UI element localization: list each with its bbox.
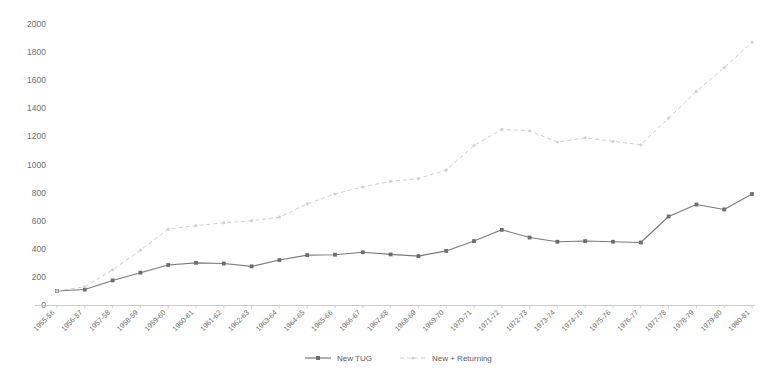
data-point-marker (250, 264, 254, 268)
x-axis-tick-label: 1974-75 (560, 308, 585, 333)
data-point-marker (611, 140, 614, 143)
x-axis-tick-label: 1958-59 (115, 308, 140, 333)
x-axis-tick-label: 1980-81 (726, 308, 751, 333)
data-point-marker (306, 202, 309, 205)
x-axis-tick-labels: 1955-561956-571957-581958-591959-601960-… (31, 308, 751, 333)
x-axis-tick-label: 1973-74 (532, 308, 557, 333)
data-point-marker (722, 208, 726, 212)
data-point-marker (472, 239, 476, 243)
y-axis-tick-labels: 0200400600800100012001400160018002000 (27, 19, 46, 310)
data-point-marker (556, 240, 560, 244)
legend-marker-swatch (411, 356, 414, 359)
x-axis-tick-label: 1968-69 (393, 308, 418, 333)
data-point-marker (556, 140, 559, 143)
data-point-marker (139, 271, 143, 275)
x-axis-tick-label: 1956-57 (59, 308, 84, 333)
y-axis-tick-label: 800 (32, 188, 46, 198)
data-point-marker (278, 216, 281, 219)
data-point-marker (194, 261, 198, 265)
legend-label: New + Returning (432, 354, 492, 363)
x-axis-tick-label: 1975-76 (587, 308, 612, 333)
x-axis-tick-label: 1957-58 (87, 308, 112, 333)
x-axis-tick-label: 1972-73 (504, 308, 529, 333)
data-point-marker (750, 41, 753, 44)
y-axis-tick-label: 1200 (27, 131, 46, 141)
data-point-marker (639, 143, 642, 146)
data-point-marker (111, 268, 114, 271)
y-axis-tick-label: 1600 (27, 75, 46, 85)
chart-legend[interactable]: New TUGNew + Returning (305, 354, 492, 363)
data-point-marker (667, 215, 671, 219)
x-axis-tick-label: 1971-72 (476, 308, 501, 333)
x-axis-tick-label: 1955-56 (31, 308, 56, 333)
x-axis-tick-label: 1961-62 (198, 308, 223, 333)
x-axis-tick-label: 1969-70 (421, 308, 446, 333)
series-layer (57, 42, 752, 291)
y-axis-tick-label: 1400 (27, 103, 46, 113)
x-axis-tick-label: 1977-78 (643, 308, 668, 333)
data-point-marker (305, 253, 309, 257)
x-axis-tick-label: 1964-65 (282, 308, 307, 333)
x-axis-tick-label: 1979-80 (699, 308, 724, 333)
data-point-marker (500, 128, 503, 131)
data-point-marker (528, 129, 531, 132)
legend-item-new-returning[interactable]: New + Returning (400, 354, 492, 363)
data-point-marker (445, 169, 448, 172)
data-point-marker (333, 192, 336, 195)
data-point-marker (333, 253, 337, 257)
data-point-marker (278, 258, 282, 262)
y-axis-tick-label: 2000 (27, 19, 46, 29)
data-point-marker (667, 117, 670, 120)
data-point-marker (583, 239, 587, 243)
data-point-marker (417, 254, 421, 258)
data-point-marker (472, 144, 475, 147)
y-axis-tick-label: 0 (41, 300, 46, 310)
y-axis-tick-label: 1800 (27, 47, 46, 57)
x-axis-tick-label: 1962-63 (226, 308, 251, 333)
x-axis-tick-label: 1970-71 (448, 308, 473, 333)
x-axis-tick-label: 1966-67 (337, 308, 362, 333)
y-axis-tick-label: 400 (32, 244, 46, 254)
data-point-marker (194, 224, 197, 227)
data-point-marker (55, 289, 58, 292)
data-point-marker (111, 279, 115, 283)
data-point-marker (611, 240, 615, 244)
y-axis-tick-label: 600 (32, 216, 46, 226)
data-point-marker (361, 250, 365, 254)
data-point-marker (389, 180, 392, 183)
data-point-marker (584, 136, 587, 139)
data-point-marker (139, 249, 142, 252)
y-axis-tick-label: 200 (32, 272, 46, 282)
data-point-marker (528, 236, 532, 240)
x-axis-tick-label: 1965-66 (309, 308, 334, 333)
data-point-marker (166, 263, 170, 267)
data-point-marker (444, 249, 448, 253)
data-point-marker (417, 177, 420, 180)
data-point-marker (695, 90, 698, 93)
data-point-marker (389, 253, 393, 257)
x-axis-tick-label: 1959-60 (143, 308, 168, 333)
x-axis-tick-label: 1967-68 (365, 308, 390, 333)
legend-label: New TUG (337, 354, 372, 363)
data-point-marker (500, 228, 504, 232)
data-point-marker (695, 203, 699, 207)
series-line-new-tug (57, 194, 752, 291)
data-point-marker (222, 262, 226, 266)
y-axis-tick-label: 1000 (27, 160, 46, 170)
legend-item-new-tug[interactable]: New TUG (305, 354, 372, 363)
chart-container: 0200400600800100012001400160018002000 19… (0, 0, 769, 376)
x-axis-tick-label: 1978-79 (671, 308, 696, 333)
data-point-marker (750, 192, 754, 196)
x-axis-tick-label: 1960-61 (170, 308, 195, 333)
data-point-marker (83, 285, 86, 288)
data-point-marker (723, 66, 726, 69)
x-axis-tick-label: 1976-77 (615, 308, 640, 333)
line-chart: 0200400600800100012001400160018002000 19… (0, 0, 769, 376)
data-point-marker (250, 219, 253, 222)
x-axis-tick-label: 1963-64 (254, 308, 279, 333)
legend-marker-swatch (316, 356, 320, 360)
series-line-new-returning (57, 42, 752, 291)
data-point-marker (639, 241, 643, 245)
data-point-marker (361, 185, 364, 188)
data-point-marker (222, 221, 225, 224)
